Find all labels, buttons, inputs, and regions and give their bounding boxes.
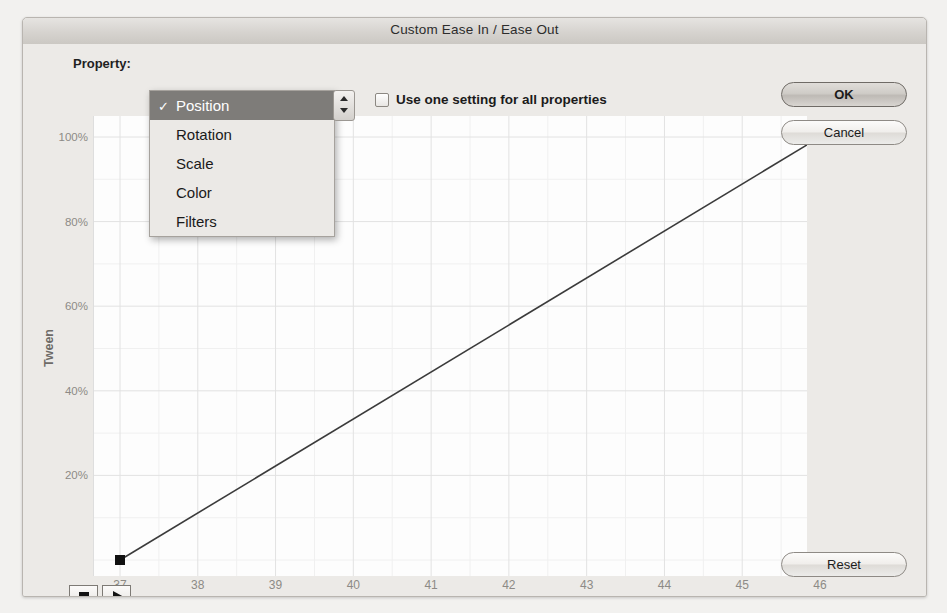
- stop-button[interactable]: [69, 585, 98, 597]
- menu-item-rotation[interactable]: ✓Rotation: [150, 120, 334, 149]
- check-icon: ✓: [158, 92, 176, 121]
- y-tick-label: 60%: [65, 300, 88, 312]
- dialog-title: Custom Ease In / Ease Out: [23, 22, 926, 37]
- y-tick-label: 80%: [65, 216, 88, 228]
- use-one-setting-label: Use one setting for all properties: [396, 92, 607, 107]
- x-tick-label: 46: [813, 578, 826, 592]
- play-button[interactable]: [102, 585, 131, 597]
- check-icon: ✓: [158, 150, 176, 179]
- use-one-setting-checkbox[interactable]: Use one setting for all properties: [375, 92, 607, 107]
- x-tick-label: 43: [580, 578, 593, 592]
- menu-item-label: Position: [176, 91, 229, 120]
- property-label: Property:: [73, 56, 131, 71]
- cancel-button[interactable]: Cancel: [781, 120, 907, 145]
- menu-item-scale[interactable]: ✓Scale: [150, 149, 334, 178]
- x-tick-label: 42: [502, 578, 515, 592]
- ok-button[interactable]: OK: [781, 82, 907, 107]
- property-stepper-arrows[interactable]: [333, 90, 355, 121]
- dialog-titlebar: Custom Ease In / Ease Out: [23, 18, 926, 45]
- menu-item-label: Color: [176, 178, 212, 207]
- x-tick-label: 41: [424, 578, 437, 592]
- menu-item-label: Scale: [176, 149, 214, 178]
- curve-control-point[interactable]: [115, 555, 125, 565]
- chevron-down-icon: [340, 108, 348, 113]
- x-tick-label: 44: [658, 578, 671, 592]
- y-tick-label: 100%: [59, 131, 88, 143]
- stop-icon: [79, 592, 89, 597]
- menu-item-color[interactable]: ✓Color: [150, 178, 334, 207]
- y-axis-title: Tween: [42, 329, 56, 367]
- x-tick-label: 45: [736, 578, 749, 592]
- menu-item-filters[interactable]: ✓Filters: [150, 207, 334, 236]
- x-tick-label: 38: [191, 578, 204, 592]
- reset-button[interactable]: Reset: [781, 552, 907, 577]
- x-tick-label: 40: [347, 578, 360, 592]
- check-icon: ✓: [158, 179, 176, 208]
- y-tick-label: 20%: [65, 469, 88, 481]
- chevron-up-icon: [340, 96, 348, 101]
- check-icon: ✓: [158, 208, 176, 237]
- custom-ease-dialog: Custom Ease In / Ease Out Property: Twee…: [22, 17, 927, 597]
- menu-item-label: Rotation: [176, 120, 232, 149]
- property-dropdown-menu[interactable]: ✓Position✓Rotation✓Scale✓Color✓Filters: [149, 90, 335, 237]
- check-icon: ✓: [158, 121, 176, 150]
- dialog-body: Property: Tween 100%80%60%40%20% 3738394…: [23, 44, 926, 596]
- menu-item-label: Filters: [176, 207, 217, 236]
- transport-controls: [69, 585, 131, 597]
- play-icon: [113, 591, 124, 597]
- menu-item-position[interactable]: ✓Position: [150, 91, 334, 120]
- checkbox-box[interactable]: [375, 93, 389, 107]
- y-tick-label: 40%: [65, 385, 88, 397]
- x-tick-label: 39: [269, 578, 282, 592]
